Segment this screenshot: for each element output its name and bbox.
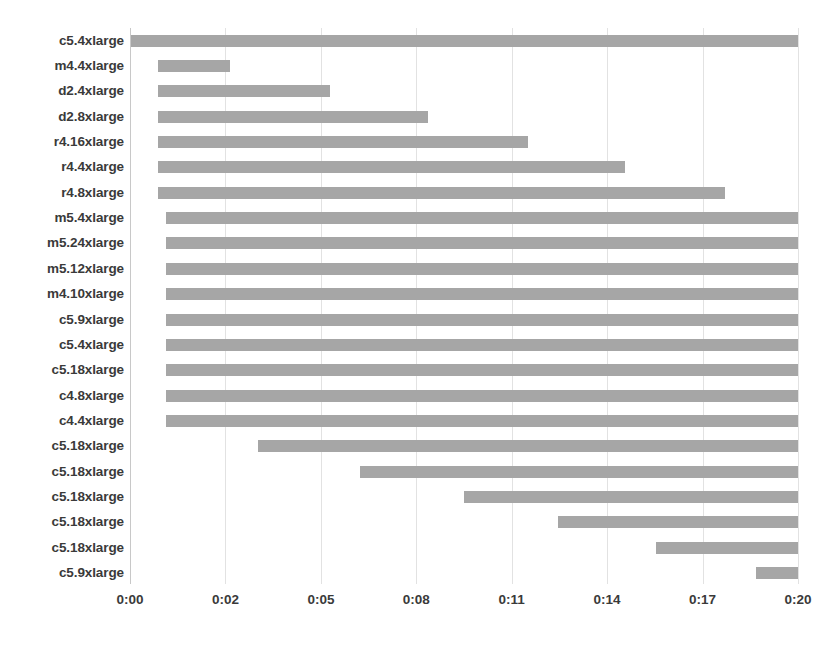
y-axis-label: d2.8xlarge: [0, 110, 124, 123]
y-axis-label: m5.24xlarge: [0, 236, 124, 249]
bar: [158, 136, 528, 148]
bar: [166, 263, 798, 275]
bar: [558, 516, 798, 528]
bar: [166, 288, 798, 300]
bar: [258, 440, 798, 452]
y-axis-label: c4.8xlarge: [0, 389, 124, 402]
bar: [158, 187, 725, 199]
x-axis-label: 0:17: [689, 592, 716, 607]
bar: [166, 364, 798, 376]
plot-area: [130, 28, 798, 584]
bar: [166, 212, 798, 224]
bar: [158, 85, 330, 97]
y-axis-label: c5.18xlarge: [0, 490, 124, 503]
x-axis-label: 0:05: [307, 592, 334, 607]
y-axis-label: c5.18xlarge: [0, 363, 124, 376]
bar: [166, 390, 798, 402]
bar: [158, 111, 428, 123]
chart-container: c5.4xlargem4.4xlarged2.4xlarged2.8xlarge…: [0, 0, 839, 645]
category-axis-line: [130, 28, 131, 584]
y-axis-label: c5.18xlarge: [0, 465, 124, 478]
y-axis-category-labels: c5.4xlargem4.4xlarged2.4xlarged2.8xlarge…: [0, 0, 124, 645]
gridline-0-20: [798, 28, 799, 584]
y-axis-label: r4.16xlarge: [0, 135, 124, 148]
y-axis-label: c5.18xlarge: [0, 439, 124, 452]
y-axis-label: m4.10xlarge: [0, 287, 124, 300]
y-axis-label: c5.9xlarge: [0, 566, 124, 579]
bar: [464, 491, 798, 503]
y-axis-label: c5.9xlarge: [0, 313, 124, 326]
bar: [360, 466, 798, 478]
y-axis-label: c5.4xlarge: [0, 34, 124, 47]
bar: [166, 314, 798, 326]
bar: [158, 161, 625, 173]
bar: [756, 567, 798, 579]
y-axis-label: r4.4xlarge: [0, 160, 124, 173]
bar: [656, 542, 798, 554]
y-axis-label: c5.18xlarge: [0, 515, 124, 528]
y-axis-label: c5.4xlarge: [0, 338, 124, 351]
bar: [130, 35, 798, 47]
y-axis-label: c5.18xlarge: [0, 541, 124, 554]
y-axis-label: d2.4xlarge: [0, 84, 124, 97]
y-axis-label: m5.12xlarge: [0, 262, 124, 275]
bar: [166, 237, 798, 249]
bar: [158, 60, 230, 72]
x-axis-label: 0:02: [212, 592, 239, 607]
x-axis-label: 0:08: [403, 592, 430, 607]
x-axis-label: 0:14: [594, 592, 621, 607]
bar: [166, 415, 798, 427]
x-axis-label: 0:00: [116, 592, 143, 607]
x-axis-label: 0:11: [499, 592, 525, 607]
x-axis-tick-labels: 0:000:020:050:080:110:140:170:20: [0, 592, 839, 622]
y-axis-label: r4.8xlarge: [0, 186, 124, 199]
bar: [166, 339, 798, 351]
y-axis-label: m5.4xlarge: [0, 211, 124, 224]
x-axis-label: 0:20: [784, 592, 811, 607]
y-axis-label: m4.4xlarge: [0, 59, 124, 72]
y-axis-label: c4.4xlarge: [0, 414, 124, 427]
